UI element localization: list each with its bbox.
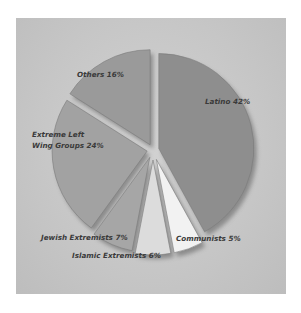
label-extreme-left-line1: Extreme Left <box>32 130 85 139</box>
pie-chart: Latino 42% Communists 5% Islamic Extremi… <box>0 0 301 313</box>
label-islamic-extremists: Islamic Extremists 6% <box>72 251 161 260</box>
label-others: Others 16% <box>77 70 124 79</box>
label-communists: Communists 5% <box>176 234 241 243</box>
label-jewish-extremists: Jewish Extremists 7% <box>39 233 128 242</box>
label-extreme-left-line2: Wing Groups 24% <box>32 141 104 150</box>
label-latino: Latino 42% <box>205 97 250 106</box>
